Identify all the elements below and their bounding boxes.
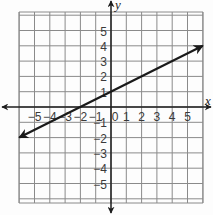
y-tick-label: 3 <box>100 55 107 69</box>
x-tick-label: 5 <box>184 110 191 124</box>
y-tick-label: −1 <box>93 116 107 130</box>
y-tick-label: 5 <box>100 25 107 39</box>
y-tick-label: −2 <box>93 132 107 146</box>
coordinate-plane: −5−4−3−2−101234554321−1−2−3−4−5 x y <box>0 0 213 215</box>
y-tick-label: −5 <box>93 178 107 192</box>
x-tick-label: 0 <box>112 110 119 124</box>
x-tick-label: 2 <box>138 110 145 124</box>
x-tick-label: −2 <box>74 110 88 124</box>
y-tick-label: 2 <box>100 70 107 84</box>
y-tick-label: 4 <box>100 40 107 54</box>
tick-labels: −5−4−3−2−101234554321−1−2−3−4−5 <box>28 25 192 192</box>
x-tick-label: 1 <box>123 110 130 124</box>
y-tick-label: −4 <box>93 162 107 176</box>
x-tick-label: 3 <box>154 110 161 124</box>
y-tick-label: −3 <box>93 147 107 161</box>
x-axis-label: x <box>204 93 211 108</box>
y-axis-label: y <box>113 0 121 12</box>
x-tick-label: −5 <box>28 110 42 124</box>
x-tick-label: 4 <box>169 110 176 124</box>
